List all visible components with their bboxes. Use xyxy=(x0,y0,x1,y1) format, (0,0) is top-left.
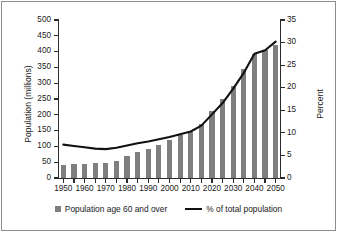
x-tick-2010 xyxy=(190,179,191,183)
x-tick-1970 xyxy=(105,179,106,183)
bar-2040 xyxy=(252,54,257,178)
bar-2050 xyxy=(273,45,278,178)
bar-2005 xyxy=(178,135,183,178)
bar-series-population-age-60-and-over xyxy=(58,20,281,178)
y-right-tick-25 xyxy=(281,65,285,66)
y-right-tick-20 xyxy=(281,87,285,88)
y-right-tick-label-15: 15 xyxy=(287,106,296,114)
y-axis-left-line xyxy=(58,19,59,179)
legend-line-icon xyxy=(185,208,202,210)
x-tick-2035 xyxy=(243,179,244,183)
y-left-tick-label-100: 100 xyxy=(37,142,51,150)
y-left-tick-300 xyxy=(54,83,58,84)
x-tick-2050 xyxy=(275,179,276,183)
x-tick-label-2050: 2050 xyxy=(267,185,285,193)
y-left-tick-label-200: 200 xyxy=(37,111,51,119)
legend-item-percent: % of total population xyxy=(185,204,282,214)
bar-1965 xyxy=(93,163,98,178)
y-left-tick-50 xyxy=(54,162,58,163)
y-left-tick-400 xyxy=(54,51,58,52)
bar-2035 xyxy=(241,69,246,178)
y-left-tick-label-350: 350 xyxy=(37,63,51,71)
y-right-tick-label-20: 20 xyxy=(287,83,296,91)
x-tick-1960 xyxy=(84,179,85,183)
x-tick-2020 xyxy=(211,179,212,183)
x-tick-label-2030: 2030 xyxy=(224,185,242,193)
bar-1970 xyxy=(103,163,108,178)
y-right-tick-label-30: 30 xyxy=(287,38,296,46)
legend-square-icon xyxy=(55,206,61,212)
bar-1980 xyxy=(124,156,129,178)
chart-legend: Population age 60 and over % of total po… xyxy=(0,204,337,214)
x-tick-2045 xyxy=(264,179,265,183)
x-tick-1980 xyxy=(126,179,127,183)
x-tick-label-2040: 2040 xyxy=(245,185,263,193)
bar-1960 xyxy=(82,164,87,178)
x-tick-label-2020: 2020 xyxy=(203,185,221,193)
x-tick-2030 xyxy=(233,179,234,183)
x-tick-2000 xyxy=(169,179,170,183)
x-tick-2025 xyxy=(222,179,223,183)
legend-label-percent: % of total population xyxy=(206,204,282,214)
x-tick-1955 xyxy=(73,179,74,183)
legend-item-population: Population age 60 and over xyxy=(55,204,167,214)
bar-2030 xyxy=(231,86,236,178)
bar-1985 xyxy=(135,152,140,178)
y-left-tick-label-0: 0 xyxy=(46,174,51,182)
y-left-tick-450 xyxy=(54,35,58,36)
legend-label-population: Population age 60 and over xyxy=(65,204,167,214)
bar-1950 xyxy=(61,165,66,178)
y-right-tick-35 xyxy=(281,19,285,20)
y-right-tick-5 xyxy=(281,155,285,156)
y-left-tick-label-400: 400 xyxy=(37,47,51,55)
y-right-tick-0 xyxy=(281,177,285,178)
x-tick-1985 xyxy=(137,179,138,183)
x-tick-1990 xyxy=(148,179,149,183)
y-right-tick-label-5: 5 xyxy=(287,151,292,159)
x-tick-2015 xyxy=(201,179,202,183)
y-left-tick-350 xyxy=(54,67,58,68)
x-tick-label-1950: 1950 xyxy=(54,185,72,193)
y-left-tick-label-450: 450 xyxy=(37,32,51,40)
y-left-tick-200 xyxy=(54,114,58,115)
y-left-tick-label-150: 150 xyxy=(37,126,51,134)
x-tick-1950 xyxy=(63,179,64,183)
bar-1955 xyxy=(71,164,76,178)
y-left-tick-label-50: 50 xyxy=(42,158,51,166)
bar-2015 xyxy=(199,124,204,178)
y-left-tick-label-500: 500 xyxy=(37,16,51,24)
y-right-tick-label-0: 0 xyxy=(287,174,292,182)
x-tick-2040 xyxy=(254,179,255,183)
x-tick-label-2010: 2010 xyxy=(182,185,200,193)
x-tick-1965 xyxy=(95,179,96,183)
bar-1975 xyxy=(114,161,119,178)
y-left-tick-150 xyxy=(54,130,58,131)
bar-2020 xyxy=(209,111,214,178)
chart-figure: 050100150200250300350400450500 051015202… xyxy=(0,0,337,232)
y-right-tick-label-25: 25 xyxy=(287,61,296,69)
bar-1995 xyxy=(156,145,161,178)
bar-2045 xyxy=(262,50,267,178)
y-right-tick-label-35: 35 xyxy=(287,16,296,24)
x-tick-label-1980: 1980 xyxy=(118,185,136,193)
y-left-tick-label-300: 300 xyxy=(37,79,51,87)
bar-1990 xyxy=(146,149,151,178)
x-tick-1975 xyxy=(116,179,117,183)
y-left-tick-label-250: 250 xyxy=(37,95,51,103)
y-right-tick-10 xyxy=(281,132,285,133)
y-left-tick-500 xyxy=(54,19,58,20)
y-axis-left-title: Population (millions) xyxy=(23,29,33,179)
y-left-tick-0 xyxy=(54,177,58,178)
bar-2025 xyxy=(220,99,225,178)
y-left-tick-250 xyxy=(54,98,58,99)
x-tick-label-1970: 1970 xyxy=(97,185,115,193)
y-right-tick-label-10: 10 xyxy=(287,129,296,137)
y-left-tick-100 xyxy=(54,146,58,147)
y-axis-right-title: Percent xyxy=(315,59,325,149)
x-tick-label-1990: 1990 xyxy=(139,185,157,193)
bar-2000 xyxy=(167,140,172,178)
y-right-tick-30 xyxy=(281,42,285,43)
x-tick-1995 xyxy=(158,179,159,183)
bar-2010 xyxy=(188,132,193,178)
x-tick-2005 xyxy=(180,179,181,183)
